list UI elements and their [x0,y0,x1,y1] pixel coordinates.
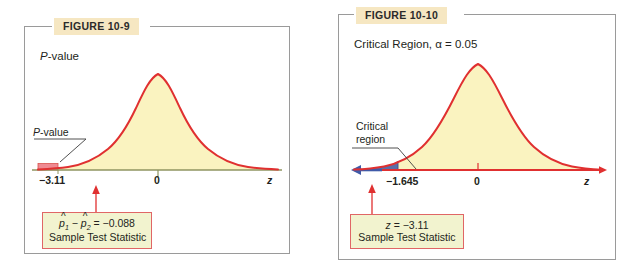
sample-test-statistic-callout-10-10: z = −3.11 Sample Test Statistic [350,214,464,249]
axis-label-left-10-9: −3.11 [39,174,65,186]
p-hat-2: ^p2 [81,217,91,231]
p-value-leader-line [34,139,86,162]
axis-name-10-10: z [584,175,589,187]
figure-sheet: FIGURE 10-9 P-value P-value [0,0,634,278]
callout-caption-10-9: Sample Test Statistic [49,231,145,243]
callout-formula-10-10: z = −3.11 [357,219,457,231]
callout-arrow-head-10-9 [92,185,100,194]
axis-label-zero-10-10: 0 [474,175,480,187]
p-hat-1: ^p1 [59,217,69,231]
axis-name-10-9: z [267,174,272,186]
axis-label-zero-10-9: 0 [154,174,160,186]
axis-label-left-10-10: −1.645 [386,175,418,187]
curve-fill-10-9 [38,74,278,170]
callout-caption-10-10: Sample Test Statistic [357,231,457,243]
callout-formula-10-9: ^p1 − ^p2 = −0.088 [49,217,145,231]
curve-fill-10-10 [354,64,602,170]
callout-arrow-head-10-10 [368,184,376,193]
figure-panel-10-9: FIGURE 10-9 P-value P-value [24,26,290,254]
sample-test-statistic-callout-10-9: ^p1 − ^p2 = −0.088 Sample Test Statistic [42,212,152,249]
figure-panel-10-10: FIGURE 10-10 Critical Region, α = 0.05 C… [338,14,616,260]
